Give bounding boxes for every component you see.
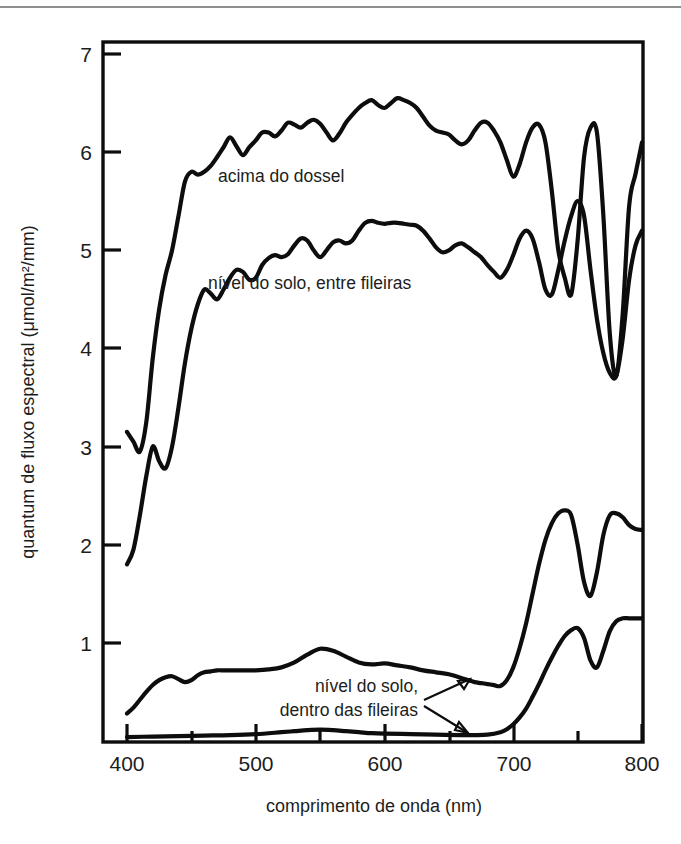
y-tick-label: 7 xyxy=(80,43,92,66)
annotation-nivel-dentro-line2: dentro das fileiras xyxy=(280,700,418,720)
y-tick-label: 5 xyxy=(80,239,92,262)
curve-group xyxy=(127,98,642,737)
y-tick-label: 6 xyxy=(80,141,92,164)
y-tick-label: 2 xyxy=(80,534,92,557)
x-tick-label: 400 xyxy=(109,752,144,775)
x-axis-tick-labels: 400 500 600 700 800 xyxy=(109,752,659,775)
y-tick-label: 1 xyxy=(80,632,92,655)
y-axis-title: quantum de fluxo espectral (μmol/m²/mm) xyxy=(18,225,38,558)
spectral-flux-chart: 7 6 5 4 3 2 1 quantum de fluxo espectral… xyxy=(0,0,681,844)
x-tick-label: 700 xyxy=(496,752,531,775)
y-axis-ticks xyxy=(103,54,121,643)
annotation-acima-do-dossel: acima do dossel xyxy=(218,166,344,186)
x-tick-label: 600 xyxy=(367,752,402,775)
figure-page: 7 6 5 4 3 2 1 quantum de fluxo espectral… xyxy=(0,0,681,844)
annotation-leaders xyxy=(424,679,470,733)
y-tick-label: 4 xyxy=(80,337,92,360)
x-tick-label: 500 xyxy=(238,752,273,775)
y-tick-label: 3 xyxy=(80,436,92,459)
x-axis-title: comprimento de onda (nm) xyxy=(266,796,482,816)
annotation-nivel-entre-fileiras: nível do solo, entre fileiras xyxy=(208,273,412,293)
y-axis-tick-labels: 7 6 5 4 3 2 1 xyxy=(80,43,92,655)
annotation-nivel-dentro-line1: nível do solo, xyxy=(315,676,418,696)
x-tick-label: 800 xyxy=(624,752,659,775)
